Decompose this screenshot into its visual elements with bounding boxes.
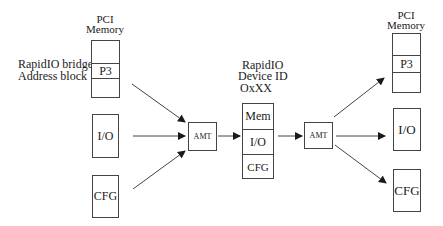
arrow-amt-to-cfg (335, 145, 386, 183)
left-io-label: I/O (93, 115, 118, 157)
amt-right-block: AMT (304, 122, 333, 149)
amt-right-label: AMT (305, 123, 332, 148)
left-pci-label-line2: Memory (80, 24, 130, 35)
arrow-cfg-to-amt (133, 151, 185, 189)
right-pci-cell-bottom (393, 72, 420, 93)
right-pci-cell-top (393, 34, 420, 55)
arrows-layer (0, 0, 443, 226)
right-pci-label-line2: Memory (381, 20, 431, 31)
right-pci-memory-block: P3 (392, 33, 421, 93)
left-pci-cell-bottom (92, 78, 119, 98)
left-cfg-block: CFG (92, 175, 119, 218)
left-pci-memory-block: P3 (91, 40, 120, 98)
right-io-block: I/O (393, 108, 421, 151)
device-label-line3: OxXX (240, 83, 272, 94)
bridge-label-line2: Address block (18, 71, 87, 82)
left-pci-cell-p3: P3 (92, 63, 119, 78)
right-cfg-block: CFG (393, 169, 421, 212)
right-cfg-label: CFG (394, 170, 420, 211)
arrow-pci-to-amt (132, 84, 185, 122)
arrow-amt-to-pci (334, 78, 384, 117)
right-io-label: I/O (394, 109, 420, 150)
left-cfg-label: CFG (93, 176, 118, 217)
device-cell-mem: Mem (243, 104, 273, 129)
left-pci-cell-top (92, 41, 119, 63)
device-block: Mem I/O CFG (242, 103, 274, 179)
amt-left-label: AMT (189, 123, 216, 150)
right-pci-cell-p3: P3 (393, 55, 420, 72)
amt-left-block: AMT (188, 122, 217, 151)
left-io-block: I/O (92, 114, 119, 158)
device-cell-io: I/O (243, 129, 273, 154)
device-cell-cfg: CFG (243, 154, 273, 179)
